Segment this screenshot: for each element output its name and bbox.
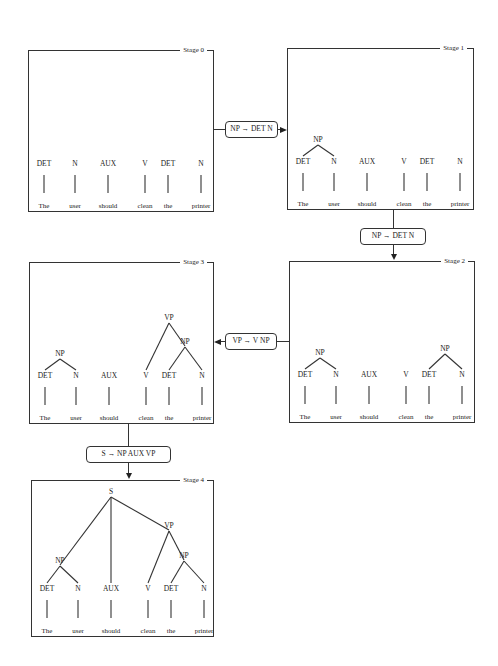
phrase-node-s: S [109,487,113,496]
category-label: N [198,159,204,168]
word-label: should [100,414,119,422]
word-label: user [70,414,82,422]
tree-branch [60,566,78,583]
word-label: should [99,202,118,210]
category-label: AUX [101,371,118,380]
word-label: the [167,627,176,635]
word-label: the [165,414,174,422]
stage-3-panel: Stage 3DETTheNuserAUXshouldVcleanDETtheN… [29,262,214,424]
category-label: N [459,370,465,379]
stage-2-panel: Stage 2DETTheNuserAUXshouldVcleanDETtheN… [289,261,475,423]
connector-stage1-rule1 [393,210,394,228]
category-label: N [73,371,79,380]
category-label: AUX [359,157,376,166]
parse-tree: DETTheNuserAUXshouldVcleanDETtheNprinter… [30,263,215,425]
word-label: clean [399,413,414,421]
connector-stage0-rule0 [214,129,225,130]
category-label: N [72,159,78,168]
tree-branch [47,566,60,583]
tree-branch [169,347,185,370]
word-label: clean [139,414,154,422]
category-label: AUX [361,370,378,379]
category-label: DET [296,157,311,166]
tree-branch [60,497,111,565]
word-label: should [360,413,379,421]
arrow-left-icon [214,339,221,345]
category-label: V [145,584,151,593]
phrase-node-np: NP [440,344,450,353]
category-label: V [142,159,148,168]
phrase-node-np: NP [315,348,325,357]
stage-4-panel: Stage 4DETTheNuserAUXshouldVcleanDETtheN… [31,480,214,637]
tree-branch [184,561,204,583]
category-label: N [333,370,339,379]
category-label: V [403,370,409,379]
connector-stage2-rule2 [277,341,289,342]
parse-tree: DETTheNuserAUXshouldVcleanDETtheNprinter [29,51,215,213]
word-label: printer [195,627,214,635]
tree-branch [146,323,169,370]
rewrite-rule-box: S → NP AUX VP [86,446,171,463]
word-label: clean [138,202,153,210]
word-label: printer [193,414,212,422]
category-label: N [331,157,337,166]
word-label: printer [451,200,470,208]
category-label: N [201,584,207,593]
category-label: DET [298,370,313,379]
category-label: V [401,157,407,166]
word-label: clean [397,200,412,208]
stage-0-panel: Stage 0DETTheNuserAUXshouldVcleanDETtheN… [28,50,214,212]
word-label: the [164,202,173,210]
tree-branch [171,561,184,583]
category-label: DET [38,371,53,380]
word-label: the [423,200,432,208]
word-label: should [358,200,377,208]
phrase-node-vp: VP [164,313,174,322]
word-label: printer [192,202,211,210]
word-label: the [425,413,434,421]
tree-branch [169,323,185,346]
tree-branch [111,497,169,530]
rewrite-rule-box: NP → DET N [225,121,278,138]
word-label: user [328,200,340,208]
rewrite-rule-box: VP → V NP [225,333,277,350]
phrase-node-np: NP [55,349,65,358]
tree-branch [320,358,336,369]
word-label: The [298,200,309,208]
tree-branch [303,145,318,156]
category-label: N [457,157,463,166]
tree-branch [45,359,60,370]
tree-branch [185,347,202,370]
parse-tree: DETTheNuserAUXshouldVcleanDETtheNprinter… [290,262,476,424]
word-label: The [300,413,311,421]
tree-branch [318,145,334,156]
category-label: V [143,371,149,380]
category-label: DET [164,584,179,593]
tree-branch [429,354,445,369]
word-label: The [39,202,50,210]
rewrite-rule-box: NP → DET N [360,228,426,245]
category-label: DET [40,584,55,593]
tree-branch [169,531,184,560]
category-label: DET [422,370,437,379]
tree-branch [305,358,320,369]
connector-stage3-rule3 [128,424,129,446]
word-label: user [330,413,342,421]
arrow-down-icon [126,473,132,479]
word-label: The [40,414,51,422]
tree-branch [148,531,169,583]
word-label: user [72,627,84,635]
tree-branch [445,354,462,369]
word-label: should [102,627,121,635]
category-label: N [199,371,205,380]
category-label: DET [37,159,52,168]
category-label: DET [161,159,176,168]
arrow-right-icon [280,127,287,133]
category-label: DET [420,157,435,166]
word-label: user [69,202,81,210]
category-label: N [75,584,81,593]
category-label: DET [162,371,177,380]
parse-tree: DETTheNuserAUXshouldVcleanDETtheNprinter… [288,49,475,211]
category-label: AUX [100,159,117,168]
word-label: printer [453,413,472,421]
